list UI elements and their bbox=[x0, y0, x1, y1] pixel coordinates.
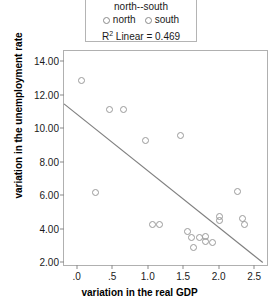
open-circle-icon bbox=[103, 17, 110, 24]
legend-label-north: north bbox=[113, 14, 136, 26]
data-point bbox=[241, 221, 248, 228]
y-axis-label: variation in the unemployment rate bbox=[13, 16, 24, 216]
x-tick-mark bbox=[183, 265, 184, 269]
legend: north--south north south R2 Linear = 0.4… bbox=[85, 0, 197, 42]
x-tick-mark bbox=[147, 265, 148, 269]
y-tick-mark bbox=[60, 94, 64, 95]
x-tick-mark bbox=[76, 265, 77, 269]
plot-inner: 2.004.006.008.0010.0012.0014.00.0.51.01.… bbox=[64, 51, 267, 265]
legend-r-squared: R2 Linear = 0.469 bbox=[86, 27, 196, 43]
data-point bbox=[120, 106, 127, 113]
data-point bbox=[190, 244, 197, 251]
legend-items: north south bbox=[86, 14, 196, 26]
r2-value-text: Linear = 0.469 bbox=[113, 31, 180, 42]
x-tick-mark bbox=[112, 265, 113, 269]
data-point bbox=[188, 234, 195, 241]
data-point bbox=[106, 106, 113, 113]
y-tick-mark bbox=[60, 262, 64, 263]
x-tick-mark bbox=[254, 265, 255, 269]
data-point bbox=[149, 221, 156, 228]
regression-line bbox=[64, 51, 267, 265]
legend-item-south: south bbox=[145, 14, 179, 26]
legend-title: north--south bbox=[86, 1, 196, 13]
legend-item-north: north bbox=[103, 14, 136, 26]
data-point bbox=[78, 77, 85, 84]
legend-label-south: south bbox=[155, 14, 179, 26]
y-tick-mark bbox=[60, 161, 64, 162]
data-point bbox=[234, 188, 241, 195]
y-tick-mark bbox=[60, 61, 64, 62]
data-point bbox=[156, 221, 163, 228]
x-axis-label: variation in the real GDP bbox=[0, 287, 279, 298]
open-circle-icon bbox=[145, 17, 152, 24]
plot-area: 2.004.006.008.0010.0012.0014.00.0.51.01.… bbox=[63, 50, 268, 266]
y-tick-mark bbox=[60, 195, 64, 196]
x-tick-mark bbox=[218, 265, 219, 269]
y-tick-mark bbox=[60, 228, 64, 229]
chart-root: north--south north south R2 Linear = 0.4… bbox=[0, 0, 279, 304]
y-tick-mark bbox=[60, 128, 64, 129]
